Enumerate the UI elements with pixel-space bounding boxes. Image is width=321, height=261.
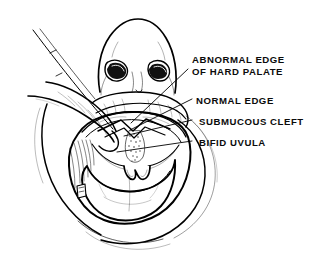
label-submucous-cleft: SUBMUCOUS CLEFT — [199, 116, 304, 128]
lower-arch-marker — [77, 184, 86, 198]
label-normal-edge: NORMAL EDGE — [196, 95, 274, 107]
label-bifid-line1: BIFID UVULA — [199, 137, 266, 149]
label-abnormal-line2: OF HARD PALATE — [192, 66, 285, 78]
label-submucous-line1: SUBMUCOUS CLEFT — [199, 116, 304, 128]
anatomical-line-drawing — [0, 0, 321, 261]
illustration-figure: ABNORMAL EDGE OF HARD PALATE NORMAL EDGE… — [0, 0, 321, 261]
label-abnormal-line1: ABNORMAL EDGE — [192, 54, 285, 66]
left-nostril — [105, 60, 128, 81]
label-abnormal-edge-of-hard-palate: ABNORMAL EDGE OF HARD PALATE — [192, 54, 285, 77]
label-normal-line1: NORMAL EDGE — [196, 95, 274, 107]
label-bifid-uvula: BIFID UVULA — [199, 137, 266, 149]
right-nostril — [148, 61, 170, 81]
